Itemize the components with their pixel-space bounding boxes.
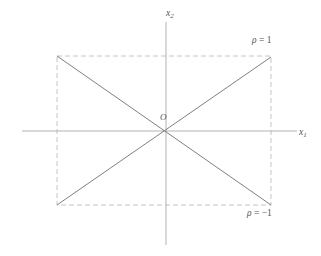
rho-negative-value: −1 <box>262 208 272 218</box>
x2-axis-label-subscript: 2 <box>170 12 174 20</box>
rho-positive-value: 1 <box>267 35 272 45</box>
origin-label: O <box>160 113 167 122</box>
rho-positive-relation: = <box>257 35 267 45</box>
rho-negative-label: ρ = −1 <box>247 209 272 219</box>
x2-axis-label: x2 <box>166 9 174 20</box>
rho-positive-label: ρ = 1 <box>252 36 271 46</box>
x1-axis-label: x1 <box>299 128 307 139</box>
rho-negative-relation: = <box>252 208 262 218</box>
x1-axis-label-subscript: 1 <box>303 131 307 139</box>
diagram-canvas <box>0 0 321 256</box>
correlation-diagram: x2 x1 ρ = 1 ρ = −1 O <box>0 0 321 256</box>
